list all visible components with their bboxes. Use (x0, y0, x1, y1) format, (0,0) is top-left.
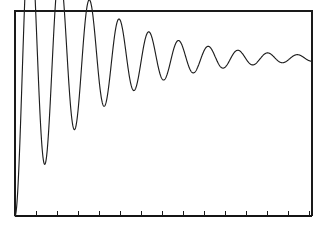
plot-canvas (0, 0, 329, 234)
chart-figure (0, 0, 329, 234)
